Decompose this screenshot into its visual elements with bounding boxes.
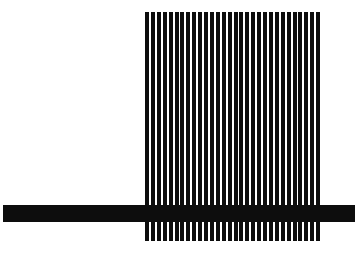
abstract-comb-figure [0, 0, 359, 257]
artwork-canvas [0, 0, 359, 257]
horizontal-bar [3, 205, 355, 222]
